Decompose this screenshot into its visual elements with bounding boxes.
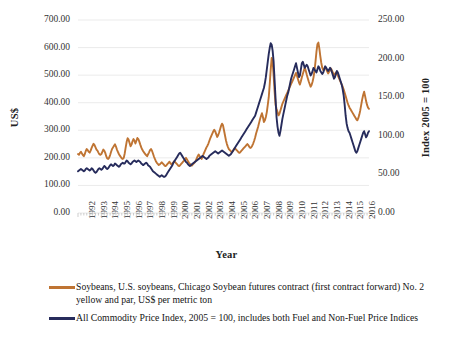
legend-label-soybeans: Soybeans, U.S. soybeans, Chicago Soybean…: [75, 281, 449, 306]
legend-swatch-soybeans: [49, 286, 75, 289]
legend-label-commodity-index: All Commodity Price Index, 2005 = 100, i…: [75, 312, 449, 325]
chart-figure: US$ Index 2005 = 100 Year 700.00600.0050…: [0, 0, 453, 345]
chart-legend: Soybeans, U.S. soybeans, Chicago Soybean…: [0, 276, 453, 345]
legend-item-soybeans: Soybeans, U.S. soybeans, Chicago Soybean…: [49, 281, 449, 306]
legend-swatch-commodity-index: [49, 317, 75, 320]
gridlines: [78, 20, 369, 213]
series-line-soybeans: [78, 43, 369, 167]
series-canvas: [0, 0, 453, 272]
chart-plot-region: US$ Index 2005 = 100 Year 700.00600.0050…: [0, 0, 453, 272]
legend-item-commodity-index: All Commodity Price Index, 2005 = 100, i…: [49, 312, 449, 325]
x-axis-tickmarks: [78, 213, 367, 217]
